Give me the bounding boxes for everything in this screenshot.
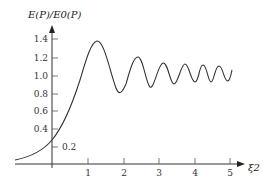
x-ticks [88, 158, 230, 164]
x-tick-label: 4 [192, 168, 198, 178]
x-tick-label: 3 [156, 168, 162, 178]
y-tick-label: 0.8 [34, 89, 49, 99]
x-tick-label: 2 [121, 168, 127, 178]
y-tick-label: 0.4 [34, 124, 49, 134]
y-tick-label: 0.6 [34, 106, 49, 116]
y-tick-label: 1.0 [34, 71, 49, 81]
y-axis-title: E(P)/E0(P) [27, 9, 81, 20]
y-axis-arrow-icon [49, 25, 55, 33]
y-tick-label: 1.4 [34, 34, 49, 44]
y-tick-label: 1.2 [34, 53, 48, 63]
x-axis-arrow-icon [237, 161, 245, 167]
chart: 0.2 0.4 0.6 0.8 1.0 1.2 1.4 1 2 3 4 5 E(… [0, 0, 268, 186]
chart-svg: 0.2 0.4 0.6 0.8 1.0 1.2 1.4 1 2 3 4 5 E(… [0, 0, 268, 186]
y-ticks [52, 39, 58, 147]
y-tick-label: 0.2 [62, 142, 76, 152]
x-axis-title: ξ2 [248, 162, 260, 173]
x-tick-label: 5 [227, 168, 233, 178]
x-tick-label: 1 [85, 168, 91, 178]
